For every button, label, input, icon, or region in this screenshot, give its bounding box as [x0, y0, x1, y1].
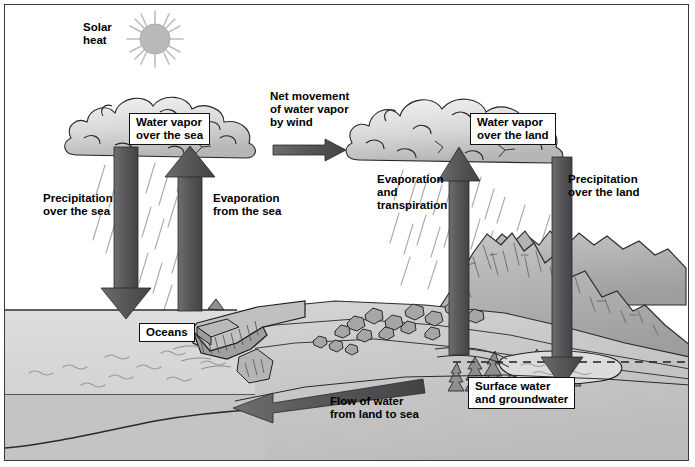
diagram-canvas [5, 5, 689, 461]
oceans-label: Oceans [139, 323, 195, 342]
precipitation-over-sea-label: Precipitation over the sea [43, 192, 113, 218]
evaporation-from-sea-label: Evaporation from the sea [213, 192, 281, 218]
net-movement-label: Net movement of water vapor by wind [270, 90, 349, 129]
flow-of-water-label: Flow of water from land to sea [330, 395, 419, 421]
water-vapor-over-sea-label: Water vapor over the sea [129, 113, 210, 145]
evaporation-transpiration-label: Evaporation and transpiration [377, 173, 447, 212]
precipitation-over-land-label: Precipitation over the land [568, 173, 640, 199]
water-vapor-over-land-label: Water vapor over the land [470, 113, 556, 145]
solar-heat-label: Solar heat [83, 21, 112, 47]
surface-water-groundwater-label: Surface water and groundwater [468, 377, 575, 409]
sea-floor [5, 395, 265, 461]
sun-icon [127, 11, 183, 67]
water-cycle-diagram: Solar heat Water vapor over the sea Net … [0, 0, 695, 467]
diagram-frame: Solar heat Water vapor over the sea Net … [4, 4, 689, 461]
